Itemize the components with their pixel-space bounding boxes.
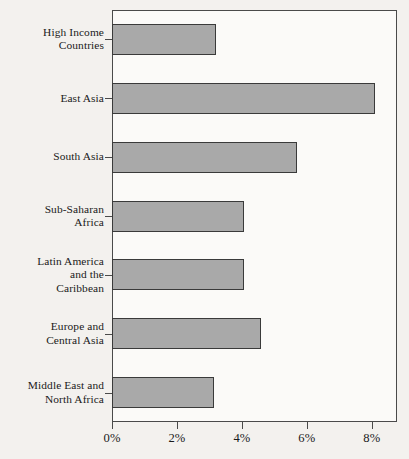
x-axis-tick-label: 6% xyxy=(282,431,332,446)
category-axis-labels: High IncomeCountriesEast AsiaSouth AsiaS… xyxy=(0,10,104,422)
bar xyxy=(112,259,244,290)
category-label: Middle East andNorth Africa xyxy=(0,379,104,406)
x-axis-tick-label: 0% xyxy=(87,431,137,446)
x-axis-tick-mark xyxy=(112,422,113,429)
x-axis-tick-label: 2% xyxy=(152,431,202,446)
category-label-line: North Africa xyxy=(0,393,104,407)
category-tick-mark xyxy=(105,157,112,158)
category-label-line: Africa xyxy=(0,216,104,230)
bar xyxy=(112,201,244,232)
category-label: Sub-SaharanAfrica xyxy=(0,203,104,230)
category-tick-mark xyxy=(105,334,112,335)
bars-layer xyxy=(112,10,397,422)
bar xyxy=(112,24,216,55)
category-tick-mark xyxy=(105,216,112,217)
bar xyxy=(112,377,214,408)
category-label-line: South Asia xyxy=(0,150,104,164)
category-label-line: Central Asia xyxy=(0,334,104,348)
category-tick-mark xyxy=(105,393,112,394)
bar xyxy=(112,83,375,114)
bar-chart: High IncomeCountriesEast AsiaSouth AsiaS… xyxy=(0,0,409,459)
category-label-line: High Income xyxy=(0,26,104,40)
category-label: Latin Americaand theCaribbean xyxy=(0,255,104,296)
x-axis: 0%2%4%6%8% xyxy=(112,422,397,459)
category-tick-mark xyxy=(105,39,112,40)
category-label-line: and the xyxy=(0,268,104,282)
x-axis-tick-label: 4% xyxy=(217,431,267,446)
x-axis-tick-mark xyxy=(307,422,308,429)
category-label: East Asia xyxy=(0,92,104,106)
category-label: Europe andCentral Asia xyxy=(0,320,104,347)
category-label-line: East Asia xyxy=(0,92,104,106)
category-label-line: Latin America xyxy=(0,255,104,269)
category-tick-mark xyxy=(105,98,112,99)
category-label-line: Countries xyxy=(0,39,104,53)
category-label-line: Sub-Saharan xyxy=(0,203,104,217)
category-label-line: Caribbean xyxy=(0,282,104,296)
x-axis-tick-mark xyxy=(177,422,178,429)
category-label-line: Europe and xyxy=(0,320,104,334)
x-axis-tick-mark xyxy=(372,422,373,429)
category-label: South Asia xyxy=(0,150,104,164)
x-axis-tick-mark xyxy=(242,422,243,429)
bar xyxy=(112,142,297,173)
bar xyxy=(112,318,261,349)
category-label-line: Middle East and xyxy=(0,379,104,393)
x-axis-tick-label: 8% xyxy=(347,431,397,446)
category-tick-mark xyxy=(105,275,112,276)
category-label: High IncomeCountries xyxy=(0,26,104,53)
